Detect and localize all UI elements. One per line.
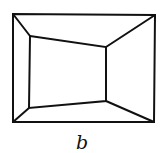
inner-back-wall [29,36,106,108]
outer-rectangle [13,14,155,122]
edge-bottom-left [13,108,29,122]
edge-top-left [13,14,30,36]
figure-caption: b [70,132,94,152]
edge-top-right [106,15,155,47]
edge-bottom-right [106,101,154,122]
